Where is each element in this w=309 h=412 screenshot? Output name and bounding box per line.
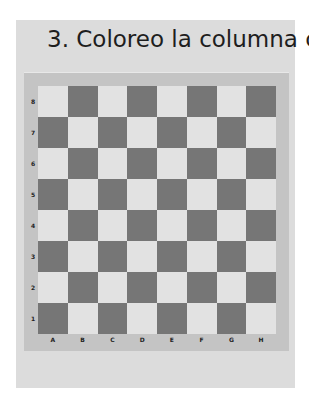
square-d5[interactable]: [127, 179, 157, 210]
square-d8[interactable]: [127, 86, 157, 117]
rank-label: 7: [29, 129, 37, 136]
exercise-title: 3. Coloreo la columna c: [47, 26, 309, 52]
rank-label: 8: [29, 98, 37, 105]
square-h5[interactable]: [246, 179, 276, 210]
square-e4[interactable]: [157, 210, 187, 241]
square-h4[interactable]: [246, 210, 276, 241]
file-label: C: [97, 336, 127, 343]
square-c2[interactable]: [98, 272, 128, 303]
square-h2[interactable]: [246, 272, 276, 303]
square-d7[interactable]: [127, 117, 157, 148]
square-f6[interactable]: [187, 148, 217, 179]
square-b8[interactable]: [68, 86, 98, 117]
square-g3[interactable]: [217, 241, 247, 272]
square-c4[interactable]: [98, 210, 128, 241]
file-label: H: [246, 336, 276, 343]
rank-label: 2: [29, 284, 37, 291]
square-d2[interactable]: [127, 272, 157, 303]
square-a1[interactable]: [38, 303, 68, 334]
square-g4[interactable]: [217, 210, 247, 241]
square-a2[interactable]: [38, 272, 68, 303]
square-h8[interactable]: [246, 86, 276, 117]
rank-label: 6: [29, 160, 37, 167]
square-b6[interactable]: [68, 148, 98, 179]
square-b2[interactable]: [68, 272, 98, 303]
file-label: G: [216, 336, 246, 343]
square-e8[interactable]: [157, 86, 187, 117]
square-f7[interactable]: [187, 117, 217, 148]
rank-label: 3: [29, 253, 37, 260]
square-b1[interactable]: [68, 303, 98, 334]
square-c6[interactable]: [98, 148, 128, 179]
square-d4[interactable]: [127, 210, 157, 241]
square-g5[interactable]: [217, 179, 247, 210]
square-a7[interactable]: [38, 117, 68, 148]
square-f1[interactable]: [187, 303, 217, 334]
square-c7[interactable]: [98, 117, 128, 148]
square-b4[interactable]: [68, 210, 98, 241]
square-c8[interactable]: [98, 86, 128, 117]
square-g2[interactable]: [217, 272, 247, 303]
square-e7[interactable]: [157, 117, 187, 148]
file-label: A: [38, 336, 68, 343]
file-label: F: [187, 336, 217, 343]
square-h3[interactable]: [246, 241, 276, 272]
square-a4[interactable]: [38, 210, 68, 241]
square-b5[interactable]: [68, 179, 98, 210]
file-label: E: [157, 336, 187, 343]
square-h6[interactable]: [246, 148, 276, 179]
square-e5[interactable]: [157, 179, 187, 210]
square-e6[interactable]: [157, 148, 187, 179]
square-d6[interactable]: [127, 148, 157, 179]
square-d1[interactable]: [127, 303, 157, 334]
square-d3[interactable]: [127, 241, 157, 272]
square-g7[interactable]: [217, 117, 247, 148]
square-h7[interactable]: [246, 117, 276, 148]
square-f2[interactable]: [187, 272, 217, 303]
square-f8[interactable]: [187, 86, 217, 117]
square-g1[interactable]: [217, 303, 247, 334]
square-b3[interactable]: [68, 241, 98, 272]
square-c3[interactable]: [98, 241, 128, 272]
square-e2[interactable]: [157, 272, 187, 303]
square-f5[interactable]: [187, 179, 217, 210]
file-label: D: [127, 336, 157, 343]
square-e1[interactable]: [157, 303, 187, 334]
square-f3[interactable]: [187, 241, 217, 272]
square-a6[interactable]: [38, 148, 68, 179]
rank-label: 1: [29, 315, 37, 322]
square-f4[interactable]: [187, 210, 217, 241]
square-c1[interactable]: [98, 303, 128, 334]
rank-label: 5: [29, 191, 37, 198]
chessboard: [38, 86, 276, 334]
square-a8[interactable]: [38, 86, 68, 117]
square-c5[interactable]: [98, 179, 128, 210]
square-a5[interactable]: [38, 179, 68, 210]
square-b7[interactable]: [68, 117, 98, 148]
square-g6[interactable]: [217, 148, 247, 179]
file-label: B: [68, 336, 98, 343]
square-g8[interactable]: [217, 86, 247, 117]
rank-label: 4: [29, 222, 37, 229]
square-a3[interactable]: [38, 241, 68, 272]
square-h1[interactable]: [246, 303, 276, 334]
square-e3[interactable]: [157, 241, 187, 272]
